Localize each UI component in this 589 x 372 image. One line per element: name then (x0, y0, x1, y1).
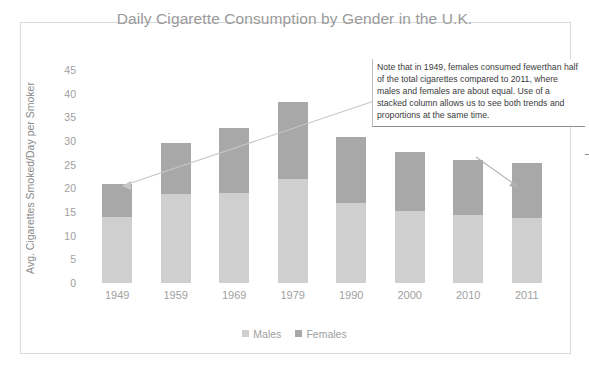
y-tick-25: 25 (48, 159, 76, 171)
bar-group-1969 (219, 0, 249, 283)
bar-group-2011 (512, 0, 542, 283)
legend-item-females[interactable]: Females (295, 327, 346, 340)
bar-segment-females-1979 (278, 102, 308, 179)
x-tick-2011: 2011 (499, 289, 555, 301)
bar-group-1979 (278, 0, 308, 283)
y-tick-30: 30 (48, 135, 76, 147)
legend-item-males[interactable]: Males (242, 327, 281, 340)
y-tick-40: 40 (48, 88, 76, 100)
annotation-note-box: Note that in 1949, females consumed fewe… (372, 59, 585, 127)
x-tick-1990: 1990 (323, 289, 379, 301)
bar-group-1959 (161, 0, 191, 283)
y-tick-10: 10 (48, 230, 76, 242)
bar-segment-males-2011 (512, 218, 542, 283)
bar-segment-females-2000 (395, 152, 425, 211)
bar-group-1990 (336, 0, 366, 283)
bar-group-1949 (102, 0, 132, 283)
y-tick-15: 15 (48, 206, 76, 218)
bar-segment-males-1949 (102, 217, 132, 283)
y-tick-35: 35 (48, 111, 76, 123)
annotation-note-underline-extension (585, 154, 589, 155)
bar-segment-females-2010 (453, 160, 483, 215)
legend-label: Males (253, 328, 281, 340)
x-tick-1969: 1969 (206, 289, 262, 301)
bar-segment-males-1969 (219, 193, 249, 283)
x-tick-1959: 1959 (148, 289, 204, 301)
y-tick-45: 45 (48, 64, 76, 76)
bar-segment-females-1959 (161, 143, 191, 194)
bar-segment-females-1969 (219, 128, 249, 193)
y-tick-0: 0 (48, 277, 76, 289)
bar-segment-males-1990 (336, 203, 366, 283)
y-tick-5: 5 (48, 253, 76, 265)
bar-segment-males-1959 (161, 194, 191, 283)
x-tick-1949: 1949 (89, 289, 145, 301)
bar-group-2000 (395, 0, 425, 283)
bar-segment-females-1990 (336, 137, 366, 202)
bar-segment-females-1949 (102, 184, 132, 217)
legend-swatch-icon (242, 330, 249, 337)
legend-swatch-icon (295, 330, 302, 337)
chart-legend: MalesFemales (0, 327, 589, 340)
bar-segment-males-1979 (278, 179, 308, 283)
legend-label: Females (306, 328, 346, 340)
x-tick-1979: 1979 (265, 289, 321, 301)
bar-group-2010 (453, 0, 483, 283)
bar-segment-females-2011 (512, 163, 542, 218)
bar-segment-males-2000 (395, 211, 425, 283)
y-axis-title: Avg. Cigarettes Smoked/Day per Smoker (24, 68, 40, 288)
x-tick-2000: 2000 (382, 289, 438, 301)
bar-segment-males-2010 (453, 215, 483, 283)
x-tick-2010: 2010 (440, 289, 496, 301)
y-tick-20: 20 (48, 182, 76, 194)
